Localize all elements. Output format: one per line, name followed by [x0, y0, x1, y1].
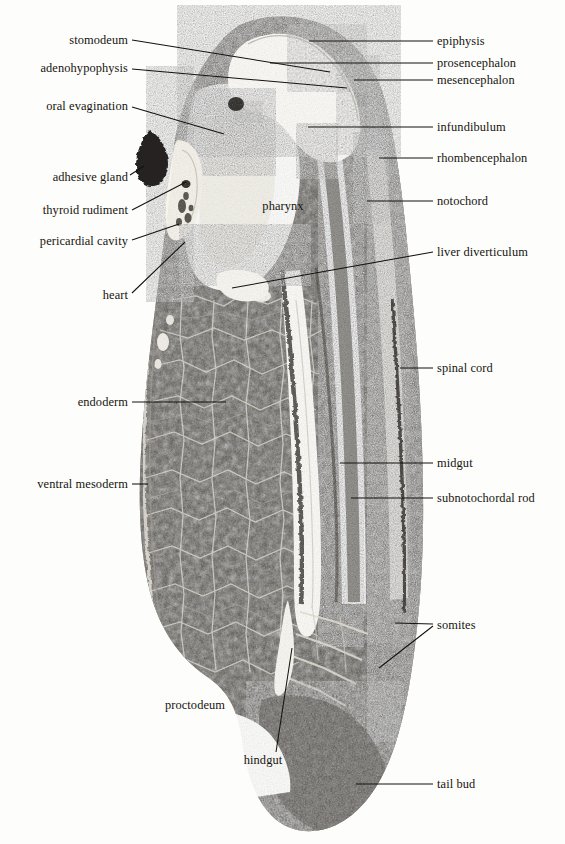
label-epiphysis: epiphysis	[437, 35, 485, 47]
label-somites: somites	[437, 619, 476, 631]
label-heart: heart	[0, 289, 128, 301]
label-prosencephalon: prosencephalon	[437, 57, 516, 69]
figure-plate: stomodeumadenohypophysisoral evagination…	[0, 0, 565, 844]
label-pericardial-cavity: pericardial cavity	[0, 235, 128, 247]
label-proctodeum: proctodeum	[165, 699, 225, 711]
label-mesencephalon: mesencephalon	[437, 74, 515, 86]
label-stomodeum: stomodeum	[0, 34, 128, 46]
label-midgut: midgut	[437, 457, 473, 469]
label-thyroid-rudiment: thyroid rudiment	[0, 204, 128, 216]
label-adhesive-gland: adhesive gland	[0, 171, 128, 183]
label-ventral-mesoderm: ventral mesoderm	[0, 478, 128, 490]
label-endoderm: endoderm	[0, 396, 128, 408]
label-liver-diverticulum: liver diverticulum	[437, 246, 528, 258]
label-spinal-cord: spinal cord	[437, 362, 493, 374]
label-oral-evagination: oral evagination	[0, 100, 128, 112]
label-pharynx: pharynx	[262, 200, 303, 212]
label-tail-bud: tail bud	[437, 778, 475, 790]
label-notochord: notochord	[437, 195, 488, 207]
label-infundibulum: infundibulum	[437, 121, 506, 133]
label-hindgut: hindgut	[244, 754, 283, 766]
label-subnotochordal-rod: subnotochordal rod	[437, 492, 535, 504]
label-adenohypophysis: adenohypophysis	[0, 62, 128, 74]
label-rhombencephalon: rhombencephalon	[437, 152, 527, 164]
